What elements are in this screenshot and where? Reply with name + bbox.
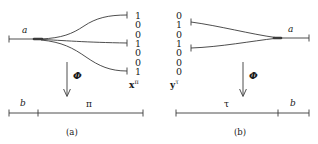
panel-b-vector-superscript: τ [175, 78, 179, 86]
panel-a-bit-6: 1 [133, 67, 143, 77]
panel-b-bit-6: 0 [174, 67, 184, 77]
panel-b-phi-label: Φ [249, 71, 258, 81]
panel-a-axis-segment-label-0: b [20, 99, 26, 108]
panel-a-branch-top [41, 15, 127, 39]
panel-a-caption: (a) [66, 128, 78, 137]
panel-b-branch-top [191, 22, 276, 38]
panel-a-axis-segment-label-1: π [86, 100, 92, 109]
panel-b-vector-label: yτ [170, 79, 179, 90]
panel-a-node-label: a [22, 26, 27, 35]
panel-a-branch-middle [41, 39, 127, 43]
panel-a-graphics [9, 12, 143, 117]
panel-b-branch-bottom [191, 38, 276, 48]
panel-b-axis-segment-label-1: b [290, 99, 296, 108]
panel-b-axis-segment-label-0: τ [224, 100, 229, 109]
figure-vector-graphics [0, 0, 318, 144]
panel-a-vector-label: xπ [129, 79, 139, 90]
panel-b-caption: (b) [234, 128, 246, 137]
panel-a-vector-superscript: π [134, 78, 138, 86]
panel-a-branch-bottom [41, 40, 127, 71]
panel-a-phi-label: Φ [73, 71, 82, 81]
figure-container: a Φ 1 0 0 1 0 0 1 xπ b π (a) 0 1 0 1 0 0… [0, 0, 318, 144]
panel-b-node-label: a [288, 25, 293, 34]
